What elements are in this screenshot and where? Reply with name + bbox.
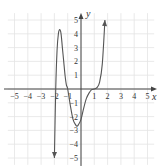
x-tick-label: 5 [146,92,150,101]
x-axis-label: x [151,91,157,102]
x-tick-label: 1 [92,92,96,101]
function-graph: −5−4−3−2−11234554321−1−2−3−4−5 x y [0,0,161,166]
x-tick-label: −3 [37,92,46,101]
y-tick-label: 4 [74,30,78,39]
x-tick-label: 4 [132,92,136,101]
y-axis-arrow-icon [79,13,84,19]
curve-end-arrow-icon [102,20,107,26]
x-tick-label: 3 [119,92,123,101]
y-tick-label: 5 [74,16,78,25]
x-tick-label: −5 [10,92,19,101]
x-tick-label: −4 [24,92,33,101]
curve-start-arrow-icon [52,152,57,158]
y-tick-label: −4 [69,140,78,149]
y-axis-label: y [85,8,91,19]
y-tick-label: −3 [69,126,78,135]
y-tick-label: 3 [74,44,78,53]
y-tick-label: −5 [69,154,78,163]
x-tick-label: 2 [106,92,110,101]
x-tick-label: −2 [50,92,59,101]
y-tick-label: 1 [74,71,78,80]
y-tick-label: 2 [74,57,78,66]
